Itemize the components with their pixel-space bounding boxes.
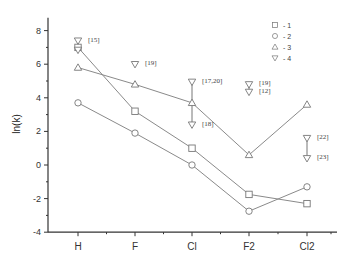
x-tick-label-cl2: Cl2	[299, 241, 314, 252]
reference-label: [15]	[88, 36, 100, 44]
y-tick-label: 8	[36, 26, 41, 36]
reference-label: [23]	[317, 153, 329, 161]
triangle-down-marker	[188, 79, 195, 85]
legend-label: - 1	[283, 22, 291, 29]
triangle-down-marker	[74, 38, 81, 44]
legend-item-2: - 2	[272, 33, 291, 40]
y-tick-label: -2	[33, 194, 41, 204]
x-tick-label-h: H	[74, 241, 81, 252]
y-tick-label: 4	[36, 93, 41, 103]
y-tick-label: 0	[36, 160, 41, 170]
square-marker	[132, 108, 138, 114]
data-markers	[74, 38, 310, 214]
circle-marker	[132, 130, 138, 136]
circle-marker	[272, 33, 277, 38]
triangle-down-marker	[245, 82, 252, 88]
square-marker	[189, 145, 195, 151]
circle-marker	[75, 100, 81, 106]
legend-item-4: - 4	[272, 55, 291, 62]
y-axis-title-group: ln(k)	[11, 114, 22, 133]
legend-item-1: - 1	[272, 22, 291, 29]
line-chart: -4-202468HFClF2Cl2 ln(k) [15][19][17,20]…	[0, 0, 352, 265]
triangle-down-marker	[188, 122, 195, 128]
x-tick-label-f: F	[132, 241, 138, 252]
reference-label: [12]	[259, 87, 271, 95]
legend-label: - 2	[283, 33, 291, 40]
circle-marker	[246, 208, 252, 214]
x-tick-label-f2: F2	[243, 241, 255, 252]
triangle-up-marker	[74, 64, 81, 70]
reference-label: [22]	[317, 133, 329, 141]
y-tick-label: 6	[36, 59, 41, 69]
reference-label: [19]	[145, 59, 157, 67]
circle-marker	[304, 184, 310, 190]
triangle-down-marker	[245, 89, 252, 95]
reference-label: [17,20]	[202, 77, 222, 85]
triangle-up-marker	[303, 101, 310, 107]
y-axis-title: ln(k)	[11, 114, 22, 133]
legend: - 1- 2- 3- 4	[272, 22, 291, 62]
triangle-down-marker	[131, 62, 138, 68]
legend-item-3: - 3	[272, 44, 291, 51]
legend-label: - 4	[283, 55, 291, 62]
reference-label: [18]	[202, 120, 214, 128]
square-marker	[304, 200, 310, 206]
circle-marker	[189, 162, 195, 168]
x-tick-label-cl: Cl	[187, 241, 196, 252]
y-tick-label: 2	[36, 126, 41, 136]
square-marker	[272, 22, 277, 27]
triangle-down-marker	[303, 156, 310, 162]
square-marker	[246, 191, 252, 197]
triangle-up-marker	[272, 44, 278, 49]
legend-label: - 3	[283, 44, 291, 51]
triangle-down-marker	[272, 56, 278, 61]
triangle-down-marker	[303, 135, 310, 141]
y-tick-label: -4	[33, 227, 41, 237]
series-lines	[78, 47, 307, 211]
